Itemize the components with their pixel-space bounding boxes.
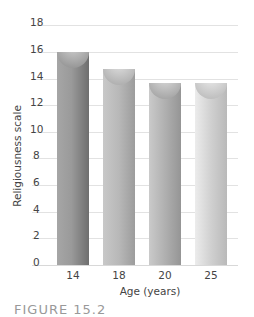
y-tick-label: 12 — [30, 96, 50, 108]
bar-cap — [149, 83, 181, 99]
bar-age-18 — [103, 69, 135, 265]
gridline-18 — [32, 25, 238, 26]
x-axis-label: Age (years) — [100, 285, 200, 297]
bar-cap — [195, 83, 227, 99]
bar-cap — [103, 69, 135, 85]
y-tick-label: 8 — [33, 149, 53, 161]
x-tick-label: 14 — [57, 269, 89, 281]
y-tick-label: 2 — [33, 229, 53, 241]
bar-age-20 — [149, 83, 181, 265]
y-tick-label: 4 — [33, 203, 53, 215]
y-axis-label: Religiousness scale — [11, 91, 23, 221]
x-tick-label: 18 — [103, 269, 135, 281]
y-tick-label: 18 — [30, 16, 50, 28]
y-tick-label: 14 — [30, 70, 50, 82]
figure-caption: FIGURE 15.2 — [14, 302, 106, 317]
gridline-0 — [32, 265, 238, 266]
bar-age-14 — [57, 52, 89, 265]
y-tick-label: 10 — [30, 123, 50, 135]
x-tick-label: 20 — [149, 269, 181, 281]
bar-cap — [57, 52, 89, 68]
y-tick-label: 6 — [33, 176, 53, 188]
x-tick-label: 25 — [195, 269, 227, 281]
y-tick-label: 16 — [30, 43, 50, 55]
y-tick-label: 0 — [33, 256, 53, 268]
bar-age-25 — [195, 83, 227, 265]
